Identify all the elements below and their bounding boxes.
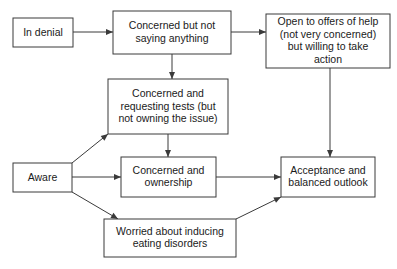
flow-node-aware: Aware — [13, 163, 72, 192]
node-label-line: (not very concerned) — [280, 28, 376, 40]
arrowhead-icon — [327, 150, 333, 157]
node-label-line: ownership — [145, 176, 193, 188]
arrowhead-icon — [169, 72, 175, 79]
flow-node-worried-eating-disorders: Worried about inducingeating disorders — [104, 219, 236, 257]
node-label-line: Concerned and — [133, 164, 205, 176]
flow-arrow — [231, 29, 266, 35]
flow-arrow — [165, 134, 171, 157]
flow-node-acceptance: Acceptance andbalanced outlook — [281, 157, 375, 197]
flow-arrow — [216, 174, 281, 180]
node-label: In denial — [23, 25, 63, 37]
node-label-line: Aware — [28, 170, 58, 182]
arrowhead-icon — [114, 174, 121, 180]
flow-arrow — [72, 132, 110, 163]
node-label-line: action — [314, 53, 342, 65]
node-label-line: saying anything — [136, 32, 209, 44]
arrowhead-icon — [106, 29, 113, 35]
flow-arrow — [73, 29, 113, 35]
flow-node-concerned-not-saying: Concerned but notsaying anything — [113, 11, 231, 54]
node-label-line: In denial — [23, 25, 63, 37]
flow-node-concerned-ownership: Concerned andownership — [121, 157, 216, 197]
node-label: Acceptance andbalanced outlook — [288, 164, 368, 189]
node-label-line: but willing to take — [288, 40, 369, 52]
arrowhead-icon — [165, 150, 171, 157]
flow-node-concerned-requesting-tests: Concerned andrequesting tests (butnot ow… — [108, 79, 228, 134]
flow-node-in-denial: In denial — [13, 18, 73, 47]
node-label-line: balanced outlook — [288, 176, 368, 188]
nodes-layer: In denialConcerned but notsaying anythin… — [13, 11, 390, 257]
node-label-line: Concerned and — [132, 87, 204, 99]
node-label-line: requesting tests (but — [120, 99, 215, 111]
node-label-line: not owning the issue) — [118, 112, 217, 124]
flowchart-canvas: In denialConcerned but notsaying anythin… — [0, 0, 397, 269]
node-label-line: Open to offers of help — [278, 15, 379, 27]
flow-arrow — [327, 68, 333, 157]
arrowhead-icon — [274, 174, 281, 180]
node-label: Concerned but notsaying anything — [129, 19, 215, 44]
flow-node-open-to-offers: Open to offers of help(not very concerne… — [266, 14, 390, 68]
node-label-line: Worried about inducing — [116, 225, 224, 237]
arrowhead-icon — [259, 29, 266, 35]
node-label: Concerned andrequesting tests (butnot ow… — [118, 87, 217, 124]
node-label-line: Acceptance and — [290, 164, 365, 176]
flow-arrow — [236, 194, 282, 219]
flow-arrow — [72, 192, 120, 222]
flow-arrow — [169, 54, 175, 79]
node-label-line: eating disorders — [133, 237, 208, 249]
node-label-line: Concerned but not — [129, 19, 215, 31]
flowchart-diagram: In denialConcerned but notsaying anythin… — [0, 0, 397, 269]
flow-arrow — [72, 174, 121, 180]
node-label: Aware — [28, 170, 58, 182]
